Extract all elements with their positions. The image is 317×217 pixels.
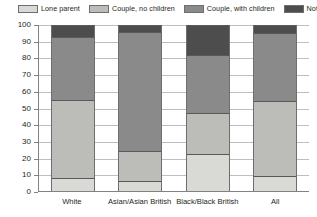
bar-segment[interactable] (186, 154, 230, 191)
chart-legend: Lone parent Couple, no children Couple, … (0, 0, 317, 18)
plot-area (38, 25, 309, 192)
legend-label-couple-with-children: Couple, with children (207, 5, 275, 13)
y-tick-label: 50 (22, 105, 31, 113)
legend-swatch-not-in-family (284, 5, 304, 13)
x-tick-label: All (242, 193, 308, 207)
y-tick-label: 80 (22, 54, 31, 62)
bar-group (39, 25, 309, 191)
bar-stack (118, 25, 162, 191)
legend-item-not-in-family: Not in family (284, 5, 317, 13)
bar-segment[interactable] (186, 55, 230, 113)
y-tick-label: 20 (22, 155, 31, 163)
y-tick-label: 60 (22, 88, 31, 96)
stacked-bar-chart: Lone parent Couple, no children Couple, … (0, 0, 317, 217)
legend-label-couple-no-children: Couple, no children (112, 5, 175, 13)
x-tick-label: White (39, 193, 105, 207)
bar-segment[interactable] (51, 100, 95, 178)
legend-swatch-couple-with-children (184, 5, 204, 13)
y-tick-label: 30 (22, 138, 31, 146)
bar-segment[interactable] (51, 37, 95, 100)
y-tick-label: 10 (22, 171, 31, 179)
bar-column[interactable] (118, 25, 162, 191)
legend-item-couple-no-children: Couple, no children (89, 5, 175, 13)
y-tick-label: 40 (22, 121, 31, 129)
y-tick-label: 0 (27, 188, 31, 196)
legend-label-lone-parent: Lone parent (41, 5, 80, 13)
x-tick-label: Black/Black British (174, 193, 240, 207)
bar-segment[interactable] (186, 113, 230, 155)
bar-column[interactable] (253, 25, 297, 191)
bar-segment[interactable] (118, 32, 162, 152)
y-axis: 1009080706050403020100 (0, 25, 38, 192)
bar-segment[interactable] (51, 178, 95, 191)
y-tick-label: 90 (22, 38, 31, 46)
y-tick-label: 70 (22, 71, 31, 79)
bar-segment[interactable] (118, 181, 162, 191)
bar-segment[interactable] (186, 25, 230, 55)
legend-swatch-couple-no-children (89, 5, 109, 13)
legend-label-not-in-family: Not in family (307, 5, 317, 13)
bar-stack (253, 25, 297, 191)
legend-item-couple-with-children: Couple, with children (184, 5, 275, 13)
y-tick-label: 100 (18, 21, 31, 29)
bar-column[interactable] (186, 25, 230, 191)
bar-stack (51, 25, 95, 191)
bar-column[interactable] (51, 25, 95, 191)
legend-item-lone-parent: Lone parent (18, 5, 80, 13)
bar-segment[interactable] (118, 151, 162, 181)
bar-segment[interactable] (118, 25, 162, 32)
x-axis: WhiteAsian/Asian BritishBlack/Black Brit… (38, 193, 309, 213)
bar-segment[interactable] (253, 25, 297, 33)
bar-segment[interactable] (253, 176, 297, 191)
bar-stack (186, 25, 230, 191)
legend-swatch-lone-parent (18, 5, 38, 13)
bar-segment[interactable] (253, 101, 297, 176)
bar-segment[interactable] (253, 33, 297, 101)
bar-segment[interactable] (51, 25, 95, 37)
x-tick-label: Asian/Asian British (107, 193, 173, 207)
